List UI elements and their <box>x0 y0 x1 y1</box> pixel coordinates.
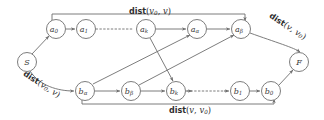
node-a-alpha-sub: α <box>196 28 200 34</box>
node-layer: S a0 a1 ak aα aβ <box>18 20 309 101</box>
svg-text:S: S <box>24 58 30 67</box>
node-F-label: F <box>295 58 302 67</box>
edge-abeta-f-curve <box>250 33 300 52</box>
node-S-label: S <box>24 58 30 67</box>
node-a1-sub: 1 <box>85 28 89 34</box>
node-b1-sub: 1 <box>239 90 243 96</box>
label-right-dist: dist(v, v0) <box>268 10 309 41</box>
node-bk[interactable]: bk <box>167 82 186 101</box>
node-a-beta-sub: β <box>239 28 243 35</box>
node-b-alpha[interactable]: bα <box>76 82 95 101</box>
node-b-beta[interactable]: bβ <box>122 82 141 101</box>
diagram-canvas: S a0 a1 ak aα aβ <box>0 0 324 120</box>
node-ak[interactable]: ak <box>137 20 156 39</box>
edge-s-a0 <box>32 36 49 54</box>
node-a1[interactable]: a1 <box>77 20 96 39</box>
node-a-beta[interactable]: aβ <box>232 20 251 39</box>
label-bottom-dist: dist(v, v0) <box>169 105 211 115</box>
edge-bbeta-abeta <box>139 35 234 85</box>
label-top-dist: dist(v0, v) <box>129 6 171 16</box>
node-b1[interactable]: b1 <box>231 82 250 101</box>
edge-layer <box>30 14 300 104</box>
node-b-beta-sub: β <box>129 90 133 97</box>
node-a0-sub: 0 <box>55 28 59 34</box>
label-left-dist: dist(v0, v) <box>22 68 63 99</box>
node-a0[interactable]: a0 <box>47 20 66 39</box>
node-b0[interactable]: b0 <box>262 82 281 101</box>
node-b0-sub: 0 <box>270 90 274 96</box>
svg-text:F: F <box>295 58 302 67</box>
node-a-alpha[interactable]: aα <box>188 20 207 39</box>
node-F[interactable]: F <box>290 53 309 72</box>
graph-diagram: S a0 a1 ak aα aβ <box>0 0 324 120</box>
edge-b0-f <box>279 70 293 85</box>
edge-ak-bk <box>150 38 173 81</box>
edge-balpha-aalpha <box>93 35 190 84</box>
node-b-alpha-sub: α <box>84 90 88 96</box>
